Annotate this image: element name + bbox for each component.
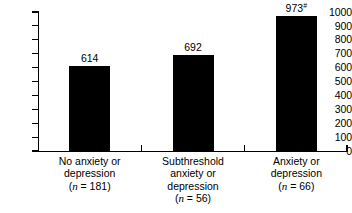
category-label: Anxiety ordepression(n = 66) bbox=[241, 155, 351, 192]
bar-value-label: 692 bbox=[153, 42, 233, 53]
y-axis-tick-label: 400 bbox=[322, 90, 352, 101]
y-axis-tick-label: 600 bbox=[322, 62, 352, 73]
x-axis-tick bbox=[244, 145, 245, 151]
group-size-label: (n = 56) bbox=[138, 192, 248, 204]
y-axis-tick-label: 300 bbox=[322, 104, 352, 115]
category-label-line: Anxiety or bbox=[241, 155, 351, 167]
category-label-line: depression bbox=[241, 167, 351, 179]
y-axis-tick bbox=[32, 137, 38, 138]
bar bbox=[173, 55, 214, 151]
bar bbox=[276, 16, 317, 151]
y-axis-tick-label: 500 bbox=[322, 76, 352, 87]
y-axis-line bbox=[38, 11, 39, 152]
y-axis-tick bbox=[32, 53, 38, 54]
y-axis-tick bbox=[32, 25, 38, 26]
n-symbol: n bbox=[282, 180, 288, 192]
bar-value-label: 973# bbox=[256, 3, 336, 14]
category-label-line: Subthreshold bbox=[138, 155, 248, 167]
category-label-line: depression bbox=[35, 167, 145, 179]
y-axis-tick-label: 800 bbox=[322, 34, 352, 45]
y-axis-tick-label: 700 bbox=[322, 48, 352, 59]
y-axis-tick bbox=[32, 81, 38, 82]
x-axis-tick bbox=[141, 145, 142, 151]
footnote-marker: # bbox=[303, 1, 307, 8]
category-label-line: depression bbox=[138, 180, 248, 192]
y-axis-tick bbox=[32, 109, 38, 110]
bar-chart: 01002003004005006007008009001000 6146929… bbox=[0, 0, 352, 213]
category-label-line: No anxiety or bbox=[35, 155, 145, 167]
y-axis-tick bbox=[32, 123, 38, 124]
y-axis-tick bbox=[32, 39, 38, 40]
n-symbol: n bbox=[72, 180, 78, 192]
n-symbol: n bbox=[178, 192, 184, 204]
y-axis-tick-label: 200 bbox=[322, 118, 352, 129]
y-axis-tick bbox=[32, 11, 38, 12]
category-label: No anxiety ordepression(n = 181) bbox=[35, 155, 145, 192]
category-label-line: anxiety or bbox=[138, 167, 248, 179]
y-axis-tick-label: 100 bbox=[322, 132, 352, 143]
bar-value-label: 614 bbox=[50, 53, 130, 64]
group-size-label: (n = 66) bbox=[241, 180, 351, 192]
y-axis-tick bbox=[32, 67, 38, 68]
y-axis-tick bbox=[32, 95, 38, 96]
y-axis-tick-label: 900 bbox=[322, 21, 352, 32]
bar bbox=[69, 66, 110, 151]
group-size-label: (n = 181) bbox=[35, 180, 145, 192]
x-axis-tick bbox=[346, 145, 347, 151]
category-label: Subthresholdanxiety ordepression(n = 56) bbox=[138, 155, 248, 205]
